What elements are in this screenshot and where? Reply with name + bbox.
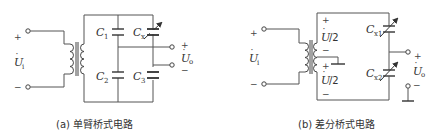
input-plus-sign: + [14, 32, 22, 42]
output-terminal-minus [406, 84, 410, 88]
caption-a: (a) 单臂桥式电路 [56, 118, 133, 130]
wire [30, 74, 64, 87]
input-plus-sign: + [250, 28, 258, 38]
output-voltage-label: U o · [413, 58, 425, 79]
svg-text:−: − [322, 89, 330, 99]
input-terminal-minus [262, 82, 266, 86]
input-terminal-plus [262, 27, 266, 31]
output-minus-sign: − [181, 65, 189, 75]
wire [266, 72, 299, 84]
variable-capacitor-cx: C x [133, 23, 161, 41]
lower-half-voltage: + U /2 · − [321, 61, 339, 99]
figure-b-differential-bridge: + − U i · [249, 13, 425, 130]
input-minus-sign: − [250, 79, 258, 89]
svg-text:−: − [322, 45, 330, 55]
input-voltage-label: U i · [14, 49, 25, 71]
input-minus-sign: − [14, 82, 22, 92]
input-voltage-label: U i · [249, 45, 260, 67]
svg-text:·: · [251, 45, 254, 55]
circuit-diagrams: + − U i · [0, 0, 434, 139]
input-terminals-a: + − U i · [14, 29, 30, 92]
variable-capacitor-cx1: C x1 [366, 19, 397, 38]
output-terminal-plus [170, 45, 174, 49]
figure-a-single-arm-bridge: + − U i · [14, 15, 193, 130]
input-terminal-plus [26, 29, 30, 33]
svg-text:o: o [421, 71, 425, 79]
svg-text:x: x [141, 33, 145, 41]
svg-text:/2: /2 [329, 32, 339, 43]
svg-text:x1: x1 [374, 30, 382, 38]
svg-text:i: i [257, 59, 260, 67]
svg-text:i: i [22, 63, 25, 71]
wire [266, 29, 299, 43]
output-terminals-a: + − U o · [170, 40, 193, 75]
svg-text:·: · [183, 45, 186, 55]
input-terminal-minus [26, 85, 30, 89]
capacitor-c2: C 2 [96, 70, 124, 85]
svg-text:o: o [189, 58, 193, 66]
output-terminals-b: + U o · − [402, 50, 425, 101]
output-terminal-minus [170, 63, 174, 67]
svg-text:1: 1 [104, 33, 108, 41]
transformer-a [64, 40, 84, 78]
output-terminal-plus [406, 50, 410, 54]
svg-text:x2: x2 [374, 74, 382, 82]
svg-text:·: · [323, 67, 326, 77]
wire [30, 31, 64, 44]
svg-text:/2: /2 [329, 75, 339, 86]
output-minus-sign: − [413, 80, 421, 90]
input-terminals-b: + − U i · [249, 27, 266, 89]
svg-text:3: 3 [141, 77, 145, 85]
upper-half-voltage: + U /2 · − [321, 15, 339, 55]
svg-text:·: · [415, 58, 418, 68]
dot-accent: · [16, 49, 19, 59]
variable-capacitor-cx2: C x2 [366, 63, 397, 82]
capacitor-c1: C 1 [96, 26, 124, 41]
svg-text:·: · [323, 24, 326, 34]
svg-text:2: 2 [104, 77, 108, 85]
transformer-b [299, 40, 317, 74]
caption-b: (b) 差分桥式电路 [298, 118, 375, 130]
